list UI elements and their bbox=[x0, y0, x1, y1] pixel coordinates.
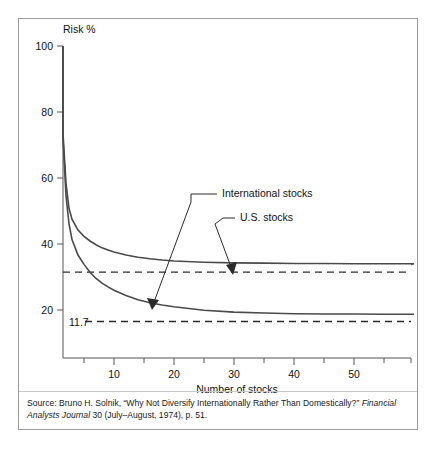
leader-line-international bbox=[191, 194, 217, 202]
source-line1-prefix: Source: Bruno H. Solnik, “Why Not Divers… bbox=[27, 398, 362, 408]
y-tick-label-80: 80 bbox=[41, 106, 53, 118]
leader-line-us bbox=[215, 218, 235, 224]
arrow-head-us bbox=[226, 262, 237, 275]
source-line2-suffix: 30 (July–August, 1974), p. 51. bbox=[90, 410, 207, 420]
x-axis-major-ticks bbox=[114, 358, 354, 365]
leader-stem-us bbox=[215, 224, 231, 267]
annotation-label-international: International stocks bbox=[222, 187, 312, 199]
x-axis-title: Number of stocks bbox=[196, 383, 278, 395]
threshold-label-11-7: 11.7 bbox=[69, 316, 89, 328]
note-divider bbox=[19, 391, 417, 392]
x-tick-label-40: 40 bbox=[288, 368, 300, 380]
source-line2-italic: Analysts Journal bbox=[27, 410, 90, 420]
y-axis-title: Risk % bbox=[63, 23, 96, 35]
y-tick-label-40: 40 bbox=[41, 238, 53, 250]
annotation-label-us: U.S. stocks bbox=[240, 211, 293, 223]
curve-international-stocks bbox=[63, 46, 414, 264]
x-tick-label-10: 10 bbox=[108, 368, 120, 380]
source-line1-italic: Financial bbox=[362, 398, 396, 408]
y-axis-ticks bbox=[57, 46, 63, 310]
y-tick-label-20: 20 bbox=[41, 304, 53, 316]
leader-stem-international bbox=[154, 202, 191, 302]
y-tick-label-60: 60 bbox=[41, 172, 53, 184]
x-tick-label-30: 30 bbox=[228, 368, 240, 380]
x-tick-label-50: 50 bbox=[348, 368, 360, 380]
y-tick-label-100: 100 bbox=[35, 40, 53, 52]
curve-us-stocks bbox=[63, 46, 414, 314]
figure-panel: 100 80 60 40 20 Risk % 10 20 30 40 bbox=[18, 18, 418, 430]
source-note: Source: Bruno H. Solnik, “Why Not Divers… bbox=[27, 398, 411, 421]
risk-diversification-chart: 100 80 60 40 20 Risk % 10 20 30 40 bbox=[19, 19, 419, 431]
x-axis-minor-ticks bbox=[84, 358, 411, 363]
x-tick-label-20: 20 bbox=[168, 368, 180, 380]
